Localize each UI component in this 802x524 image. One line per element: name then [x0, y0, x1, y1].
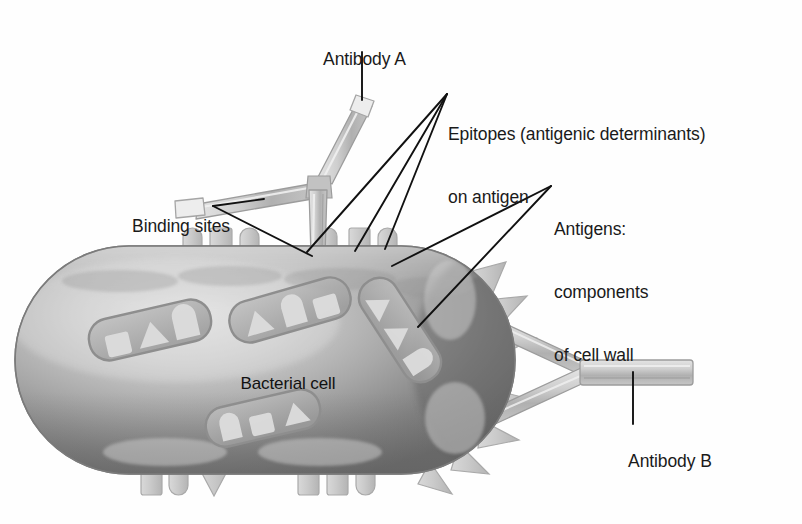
label-antibody-b: Antibody B	[610, 430, 712, 493]
label-antigens-line3: of cell wall	[554, 345, 648, 366]
label-antigens-line1: Antigens:	[554, 219, 648, 240]
antibody-antigen-diagram: Antibody A Epitopes (antigenic determina…	[0, 0, 802, 524]
label-epitopes-line1: Epitopes (antigenic determinants)	[448, 124, 705, 145]
label-antibody-a-text: Antibody A	[323, 49, 406, 69]
label-antigens: Antigens: components of cell wall	[554, 177, 648, 408]
label-antibody-b-text: Antibody B	[628, 451, 712, 471]
label-binding-sites-text: Binding sites	[132, 216, 230, 236]
label-antigens-line2: components	[554, 282, 648, 303]
label-antibody-a: Antibody A	[305, 28, 406, 91]
label-bacterial-cell: Bacterial cell	[222, 352, 335, 415]
label-binding-sites: Binding sites	[113, 195, 230, 258]
label-bacterial-cell-text: Bacterial cell	[241, 374, 336, 393]
